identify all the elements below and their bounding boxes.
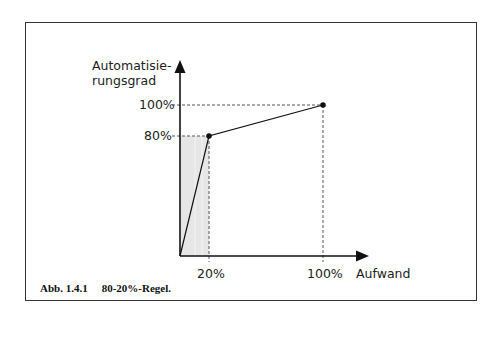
data-point-100	[320, 102, 326, 108]
x-axis-label: Aufwand	[356, 266, 410, 281]
y-axis-arrow-icon	[175, 60, 186, 73]
data-point-80	[206, 133, 212, 139]
x-axis-arrow-icon	[356, 251, 369, 262]
y-axis-label-line1: Automatisie-	[92, 58, 171, 73]
caption-text: 80-20%-Regel.	[102, 282, 171, 294]
caption-number: Abb. 1.4.1	[40, 282, 88, 294]
x-tick-100: 100%	[307, 266, 343, 281]
x-tick-20: 20%	[197, 266, 225, 281]
figure-caption: Abb. 1.4.180-20%-Regel.	[40, 282, 185, 294]
y-tick-80: 80%	[144, 128, 172, 143]
y-tick-100: 100%	[139, 97, 175, 112]
chart-canvas	[0, 0, 503, 357]
y-axis-label-line2: rungsgrad	[92, 73, 156, 88]
